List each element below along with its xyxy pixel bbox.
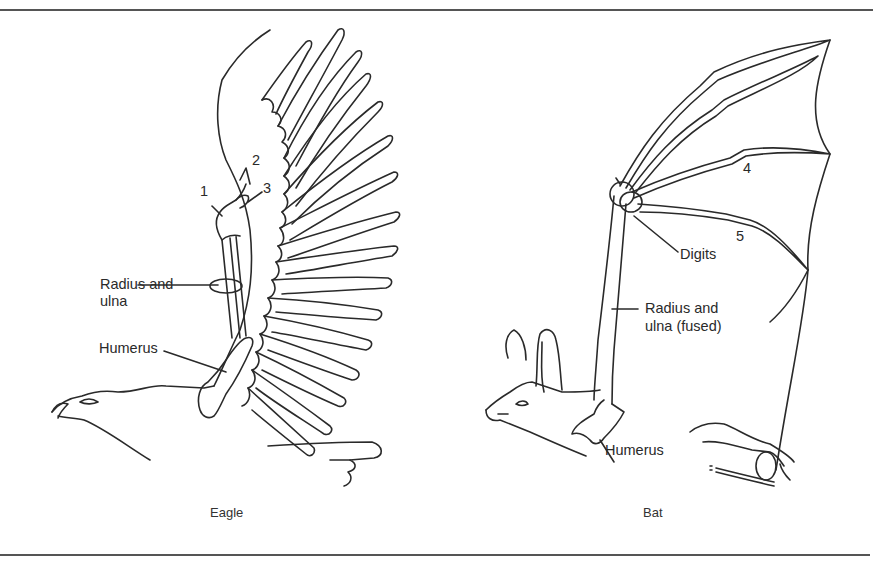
eagle-illustration [52,29,400,486]
eagle-tail [268,442,381,486]
bat-humerus [572,400,624,444]
bat-label-radius-ulna-line1: Radius and [645,300,718,317]
eagle-label-digit-2: 2 [252,152,260,169]
leader-eagle-humerus [164,351,226,372]
eagle-head [52,386,214,412]
eagle-label-radius-ulna-line1: Radius and [100,276,173,293]
bat-digit-4 [632,148,830,198]
bat-wing-membrane [776,40,830,470]
bat-illustration [486,40,830,486]
eagle-caption: Eagle [210,505,243,520]
eagle-label-digit-3: 3 [263,180,271,197]
bat-label-radius-ulna-line2: ulna (fused) [645,318,722,335]
bat-ear-left [506,330,526,360]
bat-radius-ulna [594,196,626,404]
eagle-label-radius-ulna-line2: ulna [100,293,127,310]
eagle-covert-edge [242,99,289,406]
bat-head [486,382,600,410]
bat-label-digit-5: 5 [736,228,744,245]
bat-label-digit-4: 4 [743,160,751,177]
bat-label-digits: Digits [680,246,716,263]
bat-digit-5 [638,204,808,270]
eagle-label-humerus: Humerus [99,340,158,357]
bat-caption: Bat [643,505,663,520]
leader-bat-digits [634,216,678,252]
bat-eye [516,401,528,406]
bat-label-humerus: Humerus [605,442,664,459]
bat-ear-right [536,330,562,390]
eagle-eye [80,399,98,404]
eagle-label-digit-1: 1 [200,183,208,200]
leader-eagle-digit-3 [248,192,262,202]
